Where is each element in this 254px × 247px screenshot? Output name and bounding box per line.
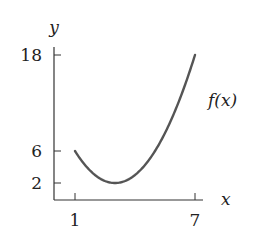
y-axis-label: y xyxy=(48,17,59,37)
function-curve xyxy=(75,55,195,183)
chart: 18 6 2 1 7 y x f(x) xyxy=(0,0,254,247)
function-label: f(x) xyxy=(206,90,237,110)
y-tick-label-18: 18 xyxy=(20,45,42,65)
y-tick-label-6: 6 xyxy=(31,141,42,161)
x-tick-label-7: 7 xyxy=(190,210,201,230)
y-tick-label-2: 2 xyxy=(31,173,42,193)
x-axis-label: x xyxy=(221,189,231,209)
x-tick-label-1: 1 xyxy=(70,210,81,230)
